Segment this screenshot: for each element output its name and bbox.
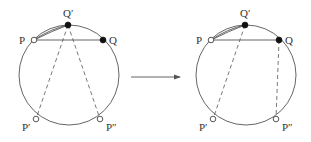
left-point-p <box>31 37 37 43</box>
right-label-pprime: P′ <box>199 121 208 133</box>
right-diagram: P Q′ Q P′ P″ <box>196 7 296 133</box>
right-point-pdoubleprime <box>273 116 279 122</box>
right-point-qprime <box>242 22 248 28</box>
left-label-qprime: Q′ <box>63 7 73 19</box>
left-label-pprime: P′ <box>22 121 31 133</box>
right-label-p: P <box>196 34 202 46</box>
right-point-pprime <box>210 116 216 122</box>
left-diagram: P Q′ Q P′ P″ <box>19 7 119 133</box>
left-segment-p-qprime-inner <box>34 25 68 40</box>
left-point-q <box>100 37 106 43</box>
left-dashed-qprime-pprime <box>36 25 68 119</box>
left-label-q: Q <box>109 34 117 46</box>
left-point-pdoubleprime <box>97 116 103 122</box>
right-dashed-qprime-pprime <box>213 25 245 119</box>
left-point-qprime <box>65 22 71 28</box>
left-label-pdoubleprime: P″ <box>106 121 117 133</box>
right-point-q <box>276 37 282 43</box>
right-label-q: Q <box>285 34 293 46</box>
diagram-canvas: P Q′ Q P′ P″ P Q′ Q P′ P″ <box>0 0 311 142</box>
right-label-qprime: Q′ <box>240 7 250 19</box>
left-dashed-qprime-pdoubleprime <box>68 25 100 119</box>
left-point-pprime <box>33 116 39 122</box>
right-segment-p-qprime-inner <box>211 25 245 40</box>
left-label-p: P <box>19 34 25 46</box>
right-dashed-q-pdoubleprime <box>276 40 279 119</box>
right-point-p <box>208 37 214 43</box>
right-label-pdoubleprime: P″ <box>282 121 293 133</box>
